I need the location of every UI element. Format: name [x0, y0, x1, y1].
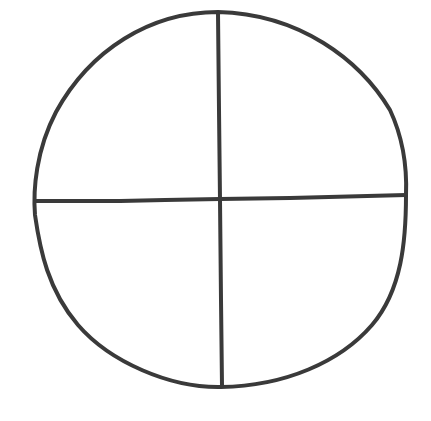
quadrant-circle-diagram	[0, 0, 431, 421]
background	[0, 0, 431, 421]
